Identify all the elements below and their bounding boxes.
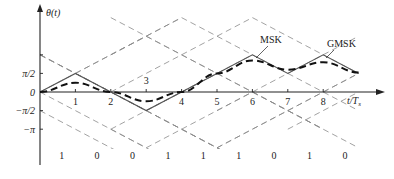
data-bit: 0	[95, 150, 100, 161]
data-bit: 1	[201, 150, 206, 161]
x-axis-label: t/Ts	[347, 95, 361, 108]
gmsk-leader-line	[326, 50, 334, 58]
data-bit: 1	[165, 150, 170, 161]
data-bit: 0	[272, 150, 277, 161]
x-axis-label-sub: s	[358, 100, 361, 108]
axes	[37, 4, 385, 165]
y-axis-label: θ(t)	[46, 7, 61, 19]
x-tick-label: 5	[215, 96, 220, 107]
y-tick-label: π/2	[22, 68, 35, 79]
y-tick-labels: π/20−π/2−π	[15, 68, 36, 135]
y-tick-label: 0	[30, 87, 35, 98]
data-bits-row: 100111010	[59, 150, 347, 161]
data-bit: 0	[342, 150, 347, 161]
y-axis-arrow-icon	[37, 4, 43, 12]
x-tick-label: 6	[250, 96, 255, 107]
x-tick-label: 2	[108, 96, 113, 107]
y-tick-label: −π/2	[15, 105, 35, 116]
y-tick-label: −π	[23, 124, 36, 135]
x-tick-label: 7	[285, 96, 290, 107]
msk-label: MSK	[260, 34, 282, 45]
trellis-line	[40, 111, 75, 130]
trellis-line	[111, 36, 146, 55]
phase-trellis-diagram: θ(t) t/Ts π/20−π/2−π 12345678 100111010 …	[0, 0, 394, 179]
gmsk-label: GMSK	[327, 38, 357, 49]
x-tick-label: 8	[321, 96, 326, 107]
x-tick-label: 3	[144, 75, 149, 86]
trellis-line	[75, 18, 181, 74]
x-axis-arrow-icon	[376, 89, 385, 95]
data-bit: 1	[236, 150, 241, 161]
data-bit: 1	[59, 150, 64, 161]
trellis-line	[40, 55, 323, 179]
x-tick-label: 1	[73, 96, 78, 107]
trellis-line	[182, 73, 359, 166]
msk-leader-line	[256, 46, 268, 58]
trellis-line	[75, 129, 146, 166]
data-bit: 0	[130, 150, 135, 161]
x-tick-label: 4	[179, 96, 184, 107]
trellis-line	[217, 111, 288, 148]
data-bit: 1	[307, 150, 312, 161]
trellis-line	[40, 92, 75, 111]
